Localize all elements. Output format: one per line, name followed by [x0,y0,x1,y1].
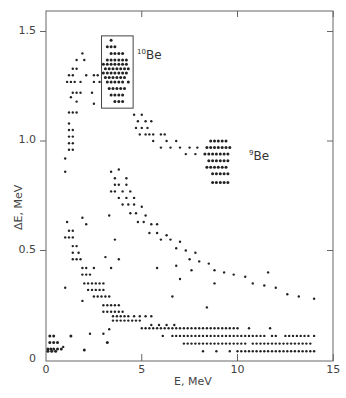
data-point [102,333,104,335]
data-point [127,203,129,205]
data-point [219,181,222,184]
data-point [298,295,300,297]
data-point [288,335,290,337]
data-point [110,94,113,97]
data-point [187,327,189,329]
data-point [144,133,146,135]
data-point [226,153,229,156]
data-point [68,149,70,151]
data-point [112,319,114,321]
data-point [169,238,171,240]
data-point [48,334,51,337]
data-point [156,232,158,234]
data-point [244,276,246,278]
data-point [146,127,148,129]
data-point [215,172,218,175]
data-point [108,214,110,216]
data-point [152,140,154,142]
data-point [102,311,104,313]
data-point [290,350,292,352]
data-point [219,153,222,156]
data-point [121,52,124,55]
data-point [72,92,74,94]
data-point [206,342,208,344]
data-point [62,346,64,348]
data-point [141,127,143,129]
data-point [83,349,86,352]
data-point [87,282,89,284]
data-point [305,350,307,352]
data-point [286,350,288,352]
data-point [98,81,100,83]
data-point [135,319,137,321]
data-point [113,45,116,48]
data-point [85,74,87,76]
data-point [225,146,228,149]
data-point [113,94,116,97]
data-point [171,295,173,297]
data-point [179,146,181,148]
data-point [72,252,74,254]
data-point [160,146,162,148]
data-point [156,223,158,225]
data-point [150,324,152,326]
axis-ticks [40,11,333,361]
data-point [52,334,55,337]
data-point [139,133,141,135]
data-point [196,146,198,148]
data-point [267,271,269,273]
data-point [50,350,53,353]
data-point [194,153,196,155]
data-point [118,311,120,313]
data-point [110,72,113,75]
data-point [75,245,77,247]
data-point [217,342,219,344]
data-point [175,327,177,329]
data-point [210,327,212,329]
data-point [75,100,77,102]
data-point [198,335,200,337]
data-point [205,146,208,149]
data-point [221,146,224,149]
data-point [175,140,177,142]
data-point [64,287,66,289]
data-point [127,67,130,70]
data-point [106,72,109,75]
data-point [190,335,192,337]
data-point [213,146,216,149]
data-point [72,149,74,151]
data-point [179,335,181,337]
data-point [217,335,219,337]
data-point [72,245,74,247]
data-point [160,238,162,240]
data-point [179,278,181,280]
data-point [202,342,204,344]
y-tick-label: 1.5 [6,24,36,37]
data-point [259,350,261,352]
data-point [171,335,173,337]
data-point [114,177,116,179]
data-point [125,177,127,179]
data-point [162,335,164,337]
data-point [173,324,175,326]
data-point [121,63,124,66]
data-point [183,327,185,329]
data-point [190,327,192,329]
data-point [52,341,55,344]
data-point [66,221,68,223]
data-point [127,315,129,317]
data-point [137,221,139,223]
data-point [68,74,70,76]
data-point [110,39,113,42]
scatter-plot [0,0,346,398]
data-point [226,181,229,184]
data-point [213,269,215,271]
data-point [135,127,137,129]
data-point [152,327,154,329]
data-point [118,197,120,199]
data-point [68,135,70,137]
data-point [298,342,300,344]
data-point [125,197,127,199]
data-point [89,273,91,275]
data-point [110,59,113,62]
